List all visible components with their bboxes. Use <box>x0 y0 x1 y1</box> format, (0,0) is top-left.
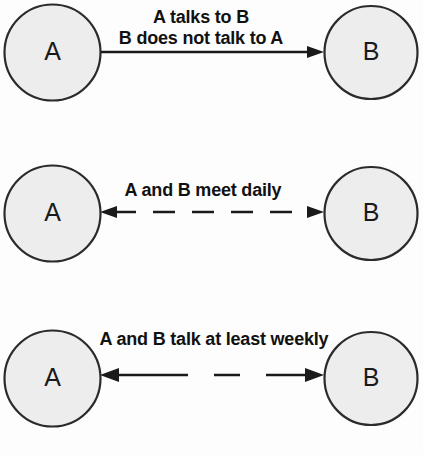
edge-label-line-2-panel-one-way: B does not talk to A <box>119 28 284 48</box>
edge-label-panel-weekly: A and B talk at least weekly <box>100 329 329 349</box>
diagram-canvas: A B A talks to B B does not talk to A A … <box>0 0 423 455</box>
relationship-diagram: A B A talks to B B does not talk to A A … <box>0 0 423 455</box>
node-a-label-panel-weekly: A <box>44 363 61 391</box>
panel-daily: A B A and B meet daily <box>5 166 418 262</box>
node-a-label-panel-one-way: A <box>44 37 61 65</box>
arrowhead-right-panel-one-way <box>307 46 324 58</box>
arrowhead-right-panel-daily <box>307 206 324 218</box>
arrowhead-right-panel-weekly <box>305 368 324 382</box>
panel-weekly: A B A and B talk at least weekly <box>5 329 418 427</box>
node-b-label-panel-one-way: B <box>363 37 380 65</box>
arrowhead-left-panel-daily <box>100 206 117 218</box>
node-a-label-panel-daily: A <box>44 198 61 226</box>
edge-label-panel-daily: A and B meet daily <box>125 180 282 200</box>
node-b-label-panel-daily: B <box>363 198 380 226</box>
node-b-label-panel-weekly: B <box>363 363 380 391</box>
panel-one-way: A B A talks to B B does not talk to A <box>5 5 418 101</box>
edge-label-line-1-panel-one-way: A talks to B <box>153 7 249 27</box>
arrowhead-left-panel-weekly <box>100 368 119 382</box>
